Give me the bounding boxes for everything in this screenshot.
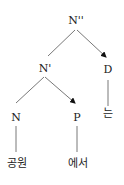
edge-root-to-nbar (48, 30, 75, 56)
leaf-word-neun: 는 (103, 107, 113, 120)
node-p: P (73, 111, 81, 124)
node-n-bar: N' (39, 62, 52, 75)
syntax-tree-diagram: N'' N' D N P 공원 에서 는 (0, 0, 124, 185)
edge-nbar-to-p-arrow (45, 77, 75, 103)
leaf-word-gongwon: 공원 (7, 157, 27, 170)
leaf-word-eseo: 에서 (68, 157, 88, 170)
node-d: D (104, 63, 113, 76)
node-n-double-bar: N'' (68, 14, 84, 27)
edge-nbar-to-n (16, 77, 44, 103)
node-n: N (11, 111, 21, 124)
edge-root-to-d-arrow (77, 30, 106, 57)
